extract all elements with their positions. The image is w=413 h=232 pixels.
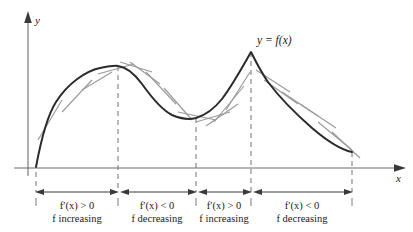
tangent-line-1 [38,100,62,140]
curve-equation-label: y = f(x) [256,34,292,47]
interval-behavior-2: f decreasing [131,213,183,224]
interval-label-2: f′(x) < 0 f decreasing [131,200,183,224]
tangent-line-3 [82,72,112,90]
x-axis-label: x [395,172,401,184]
interval-derivative-3: f′(x) > 0 [207,200,241,212]
tangent-line-2 [62,80,92,112]
interval-behavior-1: f increasing [52,213,102,224]
interval-derivative-2: f′(x) < 0 [140,200,174,212]
figure-canvas: y x [0,0,413,232]
dashed-guides [118,52,352,192]
y-axis [24,11,32,176]
interval-label-3: f′(x) > 0 f increasing [199,200,249,224]
function-curve [36,52,352,167]
interval-behavior-4: f decreasing [276,213,328,224]
interval-arrows [35,189,353,195]
tangent-line-6 [130,62,160,84]
tangent-lines [38,62,360,158]
interval-derivative-1: f′(x) > 0 [60,200,94,212]
interval-label-1: f′(x) > 0 f increasing [52,200,102,224]
x-axis [14,164,406,172]
interval-derivative-4: f′(x) < 0 [285,200,319,212]
derivative-sign-figure: y x [0,0,413,232]
tangent-line-7 [146,72,176,104]
y-axis-label: y [34,14,40,26]
tangent-line-11 [206,104,238,126]
interval-behavior-3: f increasing [199,213,249,224]
interval-label-4: f′(x) < 0 f decreasing [276,200,328,224]
tangent-line-17 [300,104,336,128]
tangent-line-8 [164,88,192,120]
